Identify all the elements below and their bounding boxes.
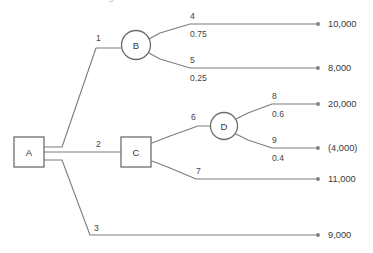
node-B-label: B xyxy=(133,40,139,51)
node-D[interactable]: D xyxy=(211,113,238,140)
branch-line-7 xyxy=(152,161,317,179)
node-A[interactable]: A xyxy=(14,137,44,167)
branch-line-1 xyxy=(44,48,121,147)
node-C-label: C xyxy=(133,147,140,158)
node-C[interactable]: C xyxy=(121,137,151,167)
terminal-arrow-3 xyxy=(316,233,320,237)
payoff-label-5: 8,000 xyxy=(328,63,351,73)
terminal-arrow-8 xyxy=(316,102,320,106)
payoff-label-3: 9,000 xyxy=(328,230,351,240)
branch-line-3 xyxy=(44,160,317,235)
branch-label-2: 2 xyxy=(96,139,101,149)
branch-label-1: 1 xyxy=(96,33,101,43)
payoff-label-4: 10,000 xyxy=(328,19,356,29)
branch-label-5: 5 xyxy=(190,55,195,65)
branch-line-6 xyxy=(152,126,211,143)
terminal-arrow-7 xyxy=(316,177,320,181)
branch-label-7: 7 xyxy=(196,166,201,176)
terminal-arrow-9 xyxy=(316,146,320,150)
branch-label-9: 9 xyxy=(272,135,277,145)
branch-line-4 xyxy=(149,24,317,39)
terminal-arrow-4 xyxy=(316,22,320,26)
probability-label-4: 0.75 xyxy=(190,29,207,39)
branch-label-6: 6 xyxy=(191,112,196,122)
probability-label-9: 0.4 xyxy=(272,153,284,163)
branch-label-8: 8 xyxy=(272,91,277,101)
node-A-label: A xyxy=(26,147,33,158)
node-B[interactable]: B xyxy=(122,31,151,60)
decision-tree-canvas: A B C D 1 2 3 4 5 6 7 8 9 0.75 0.25 0.6 … xyxy=(0,0,373,253)
branch-line-5 xyxy=(149,53,317,68)
node-D-label: D xyxy=(221,121,228,132)
branch-label-4: 4 xyxy=(190,11,195,21)
probability-label-8: 0.6 xyxy=(272,109,284,119)
decision-tree-diagram: Decision tree diagram A xyxy=(0,0,373,253)
branch-label-3: 3 xyxy=(94,223,99,233)
payoff-label-8: 20,000 xyxy=(328,99,356,109)
payoff-label-9: (4,000) xyxy=(328,143,357,153)
probability-label-5: 0.25 xyxy=(190,73,207,83)
terminal-arrow-5 xyxy=(316,66,320,70)
payoff-label-7: 11,000 xyxy=(328,174,356,184)
